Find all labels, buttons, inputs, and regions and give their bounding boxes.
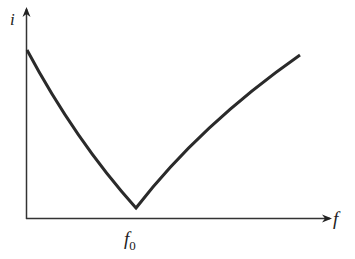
- f0-tick-label: f0: [124, 228, 136, 254]
- chart-canvas: [0, 0, 355, 259]
- f0-subscript: 0: [129, 238, 136, 253]
- current-curve: [27, 50, 300, 208]
- y-axis-label: i: [10, 10, 15, 30]
- x-axis-label: f: [333, 208, 338, 230]
